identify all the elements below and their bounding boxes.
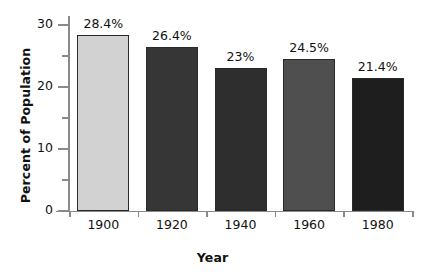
bar	[77, 35, 129, 211]
bar-value-label: 26.4%	[132, 30, 212, 43]
y-axis-tick-label: 10	[13, 142, 53, 155]
y-axis-minor-tick	[62, 117, 69, 119]
x-axis-tick-label: 1920	[137, 219, 207, 232]
y-axis-minor-tick	[62, 55, 69, 57]
x-axis-title: Year	[0, 250, 425, 265]
bar-value-label: 28.4%	[63, 18, 143, 31]
y-axis-major-tick	[58, 148, 69, 150]
x-axis-tick-label: 1960	[274, 219, 344, 232]
y-axis-line	[68, 16, 70, 212]
x-axis-tick-label: 1980	[343, 219, 413, 232]
x-axis-tick-label: 1900	[68, 219, 138, 232]
x-axis-tick	[206, 211, 208, 217]
bar	[283, 59, 335, 211]
y-axis-tick-label: 20	[13, 80, 53, 93]
bar-value-label: 24.5%	[269, 42, 349, 55]
x-axis-tick	[412, 211, 414, 217]
bar-value-label: 21.4%	[338, 61, 418, 74]
y-axis-tick-label: 30	[13, 18, 53, 31]
y-axis-major-tick	[58, 86, 69, 88]
bar	[352, 78, 404, 211]
x-axis-tick	[138, 211, 140, 217]
x-axis-tick	[343, 211, 345, 217]
y-axis-title: Percent of Population	[18, 41, 33, 211]
y-axis-tick-label: 0	[13, 204, 53, 217]
x-axis-tick	[275, 211, 277, 217]
x-axis-tick-label: 1940	[206, 219, 276, 232]
y-axis-minor-tick	[62, 179, 69, 181]
bar-chart: Percent of Population Year 0102030190019…	[0, 0, 425, 274]
x-axis-tick	[69, 211, 71, 217]
y-axis-major-tick	[58, 210, 69, 212]
bar	[146, 47, 198, 211]
bar	[215, 68, 267, 211]
